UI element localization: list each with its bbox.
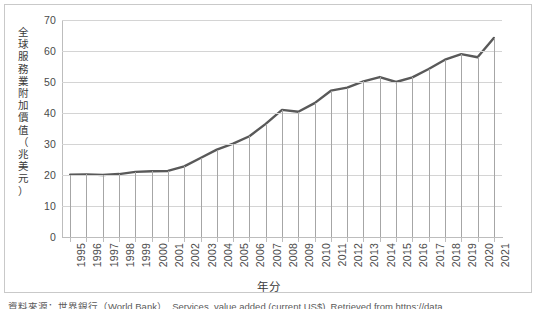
y-tick-label: 30: [44, 138, 56, 150]
x-tick-mark: [233, 237, 234, 242]
data-point-drop-line: [266, 124, 267, 237]
x-tick-label: 2018: [450, 243, 462, 267]
x-tick-mark: [201, 237, 202, 242]
y-axis-tick-labels: 010203040506070: [0, 0, 56, 237]
x-tick-label: 2013: [368, 243, 380, 267]
x-tick-label: 2006: [254, 243, 266, 267]
data-point-drop-line: [282, 110, 283, 237]
x-tick-mark: [380, 237, 381, 242]
x-tick-label: 2017: [434, 243, 446, 267]
x-tick-mark: [266, 237, 267, 242]
x-tick-label: 2004: [222, 243, 234, 267]
data-point-drop-line: [168, 171, 169, 237]
data-point-drop-line: [217, 150, 218, 237]
x-tick-mark: [103, 237, 104, 242]
x-tick-mark: [494, 237, 495, 242]
x-tick-label: 2016: [417, 243, 429, 267]
y-tick-label: 10: [44, 200, 56, 212]
x-tick-label: 2000: [157, 243, 169, 267]
x-axis-title: 年分: [0, 278, 538, 294]
x-tick-label: 2005: [238, 243, 250, 267]
y-tick-label: 20: [44, 169, 56, 181]
x-tick-mark: [249, 237, 250, 242]
x-tick-mark: [461, 237, 462, 242]
x-tick-mark: [184, 237, 185, 242]
x-tick-mark: [331, 237, 332, 242]
data-point-drop-line: [429, 69, 430, 237]
data-point-drop-line: [396, 82, 397, 237]
x-tick-label: 1999: [140, 243, 152, 267]
x-tick-mark: [282, 237, 283, 242]
grid-line: [62, 51, 502, 52]
x-tick-label: 1996: [91, 243, 103, 267]
x-tick-label: 2002: [189, 243, 201, 267]
x-tick-label: 1995: [75, 243, 87, 267]
x-tick-label: 2019: [466, 243, 478, 267]
data-point-drop-line: [363, 81, 364, 237]
x-tick-mark: [119, 237, 120, 242]
data-point-drop-line: [135, 172, 136, 237]
x-tick-mark: [412, 237, 413, 242]
x-tick-mark: [298, 237, 299, 242]
x-tick-label: 2003: [206, 243, 218, 267]
plot-area: [62, 20, 502, 237]
x-tick-label: 2001: [173, 243, 185, 267]
x-tick-label: 2021: [499, 243, 511, 267]
x-tick-mark: [396, 237, 397, 242]
x-tick-mark: [168, 237, 169, 242]
data-point-drop-line: [70, 175, 71, 237]
x-tick-label: 2011: [336, 243, 348, 266]
x-tick-label: 2008: [287, 243, 299, 267]
data-point-drop-line: [152, 171, 153, 237]
x-tick-mark: [135, 237, 136, 242]
x-tick-mark: [363, 237, 364, 242]
data-point-drop-line: [119, 174, 120, 237]
data-point-drop-line: [331, 91, 332, 237]
x-tick-mark: [86, 237, 87, 242]
data-point-drop-line: [233, 144, 234, 237]
data-point-drop-line: [478, 57, 479, 237]
data-point-drop-line: [412, 77, 413, 237]
x-tick-mark: [429, 237, 430, 242]
y-tick-label: 50: [44, 76, 56, 88]
data-point-drop-line: [380, 77, 381, 237]
data-point-drop-line: [249, 136, 250, 237]
x-tick-label: 2012: [352, 243, 364, 267]
x-tick-mark: [445, 237, 446, 242]
x-tick-label: 1997: [108, 243, 120, 267]
data-point-drop-line: [86, 174, 87, 237]
x-tick-label: 2009: [303, 243, 315, 267]
x-tick-mark: [315, 237, 316, 242]
data-point-drop-line: [298, 112, 299, 237]
x-tick-label: 2007: [271, 243, 283, 267]
x-tick-mark: [70, 237, 71, 242]
x-tick-mark: [152, 237, 153, 242]
x-tick-label: 2014: [385, 243, 397, 267]
x-tick-mark: [217, 237, 218, 242]
data-point-drop-line: [445, 60, 446, 237]
data-point-drop-line: [184, 166, 185, 237]
x-tick-label: 2010: [320, 243, 332, 267]
chart-screenshot: 全球服務業附加價值（兆美元） 010203040506070 199519961…: [0, 0, 538, 309]
data-point-drop-line: [347, 88, 348, 237]
x-tick-mark: [478, 237, 479, 242]
data-point-drop-line: [315, 103, 316, 237]
x-tick-label: 2015: [401, 243, 413, 267]
data-point-drop-line: [461, 54, 462, 237]
grid-line: [62, 20, 502, 21]
x-tick-mark: [347, 237, 348, 242]
y-tick-label: 60: [44, 45, 56, 57]
data-point-drop-line: [201, 158, 202, 237]
y-tick-label: 40: [44, 107, 56, 119]
grid-line: [62, 82, 502, 83]
y-tick-label: 70: [44, 14, 56, 26]
data-point-drop-line: [494, 38, 495, 237]
data-point-drop-line: [103, 175, 104, 237]
x-tick-label: 2020: [483, 243, 495, 267]
source-caption: 資料來源：世界銀行（World Bank）. Services, value a…: [8, 299, 538, 309]
x-tick-label: 1998: [124, 243, 136, 267]
y-tick-label: 0: [50, 231, 56, 243]
